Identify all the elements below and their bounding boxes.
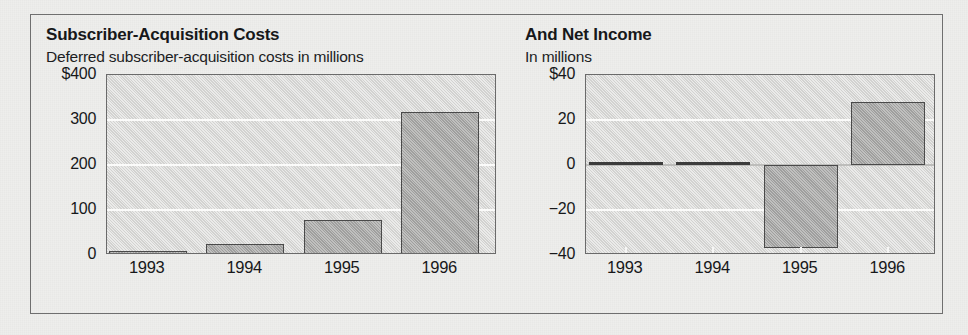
right-x-axis-labels: 1993199419951996	[585, 256, 935, 280]
left-x-label-2: 1995	[324, 256, 360, 278]
bar-1994	[206, 244, 284, 254]
right-plot-wrapper: −40−20020$40 1993199419951996	[525, 74, 937, 279]
right-x-label-0: 1993	[607, 256, 643, 278]
panel-net-income: And Net Income In millions −40−20020$40 …	[525, 24, 945, 299]
left-x-label-0: 1993	[129, 256, 165, 278]
panel-subscriber-acquisition-costs: Subscriber-Acquisition Costs Deferred su…	[46, 24, 506, 299]
bar-1993	[589, 162, 663, 165]
left-y-axis-labels: 0100200300$400	[46, 74, 102, 254]
right-y-tick-0: −40	[549, 246, 575, 262]
chart-panels: Subscriber-Acquisition Costs Deferred su…	[0, 0, 968, 335]
right-x-tick-3	[887, 247, 889, 253]
right-x-tick-1	[712, 247, 714, 253]
right-plot-area	[585, 74, 935, 254]
right-x-label-2: 1995	[782, 256, 818, 278]
right-x-label-1: 1994	[694, 256, 730, 278]
left-y-tick-1: 100	[70, 201, 96, 217]
bar-1995	[764, 165, 838, 248]
left-panel-title: Subscriber-Acquisition Costs	[46, 24, 506, 46]
right-y-tick-1: −20	[549, 201, 575, 217]
left-panel-subtitle: Deferred subscriber-acquisition costs in…	[46, 46, 506, 68]
left-x-label-1: 1994	[226, 256, 262, 278]
right-panel-title: And Net Income	[525, 24, 945, 46]
left-plot-wrapper: 0100200300$400 1993199419951996	[46, 74, 498, 279]
bar-1996	[401, 112, 479, 254]
bar-1995	[304, 220, 382, 254]
left-plot-area	[106, 74, 496, 254]
right-y-tick-4: $40	[549, 66, 575, 82]
right-x-label-3: 1996	[869, 256, 905, 278]
right-y-tick-3: 20	[558, 111, 575, 127]
right-x-tick-2	[800, 247, 802, 253]
right-gridline-0	[586, 209, 934, 212]
right-panel-subtitle: In millions	[525, 46, 945, 68]
left-x-label-3: 1996	[421, 256, 457, 278]
left-y-tick-3: 300	[70, 111, 96, 127]
bar-1994	[676, 162, 750, 165]
right-y-tick-2: 0	[566, 156, 575, 172]
left-x-axis-labels: 1993199419951996	[106, 256, 496, 280]
right-x-tick-0	[625, 247, 627, 253]
right-y-axis-labels: −40−20020$40	[525, 74, 581, 254]
bar-1996	[851, 102, 925, 165]
left-y-tick-0: 0	[87, 246, 96, 262]
left-y-tick-4: $400	[62, 66, 96, 82]
bar-1993	[109, 251, 187, 255]
left-y-tick-2: 200	[70, 156, 96, 172]
